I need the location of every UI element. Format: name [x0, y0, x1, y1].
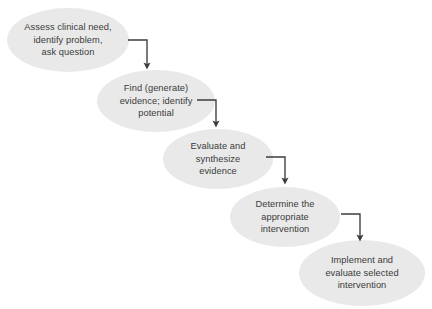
node-determine-intervention[interactable]: Determine the appropriate intervention — [230, 187, 340, 247]
node-label-assess-clinical-need: Assess clinical need, identify problem, … — [18, 21, 117, 59]
node-evaluate-synthesize[interactable]: Evaluate and synthesize evidence — [163, 129, 273, 189]
node-label-implement-evaluate: Implement and evaluate selected interven… — [319, 254, 404, 292]
node-label-evaluate-synthesize: Evaluate and synthesize evidence — [185, 140, 252, 178]
node-label-determine-intervention: Determine the appropriate intervention — [249, 198, 320, 236]
node-find-evidence[interactable]: Find (generate) evidence; identify poten… — [97, 70, 215, 132]
node-assess-clinical-need[interactable]: Assess clinical need, identify problem, … — [7, 8, 129, 72]
node-implement-evaluate[interactable]: Implement and evaluate selected interven… — [299, 240, 425, 306]
connector-arrow-4 — [341, 214, 360, 238]
connector-arrow-1 — [128, 40, 147, 66]
node-label-find-evidence: Find (generate) evidence; identify poten… — [114, 82, 199, 120]
flowchart-diagram: Assess clinical need, identify problem, … — [0, 0, 432, 309]
